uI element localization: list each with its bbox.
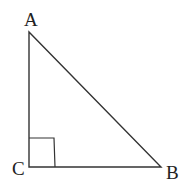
vertex-label-a: A — [24, 9, 38, 30]
vertex-label-c: C — [12, 158, 25, 179]
triangle-diagram: A C B — [0, 0, 186, 188]
vertex-label-b: B — [166, 162, 179, 183]
right-angle-marker — [29, 138, 55, 167]
triangle-abc — [29, 32, 161, 167]
